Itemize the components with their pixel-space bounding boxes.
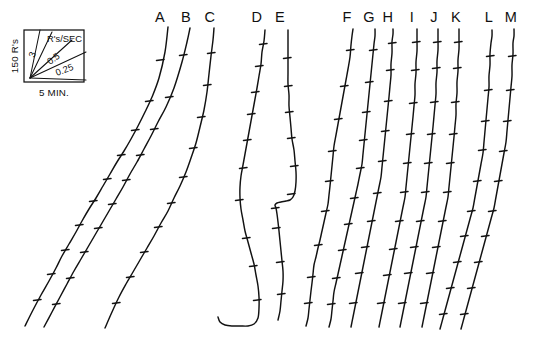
curve-label-F: F — [342, 9, 351, 25]
reinforcement-pip-I-7 — [407, 134, 415, 135]
reinforcement-pip-D-9 — [256, 66, 264, 67]
legend-x-axis-label: 5 MIN. — [39, 87, 69, 98]
reinforcement-pip-C-1 — [113, 303, 121, 304]
record-curve-J — [399, 29, 442, 327]
reinforcement-pip-D-1 — [254, 300, 262, 301]
reinforcement-pip-J-7 — [428, 134, 436, 135]
reinforcement-pip-I-8 — [410, 103, 418, 104]
reinforcement-pip-H-1 — [350, 303, 358, 304]
reinforcement-pip-I-6 — [404, 163, 412, 164]
record-trace-J — [400, 29, 438, 327]
reinforcement-pip-C-8 — [198, 117, 206, 118]
record-curve-H — [350, 29, 397, 327]
record-trace-I — [379, 29, 417, 327]
reinforcement-pip-I-5 — [401, 192, 409, 193]
reinforcement-pip-F-5 — [326, 181, 334, 182]
reinforcement-pip-H-9 — [387, 70, 395, 71]
legend-rate-line-label-0-25: 0.25 — [54, 61, 75, 78]
reinforcement-pip-A-1 — [34, 300, 42, 301]
reinforcement-pip-G-6 — [357, 168, 365, 169]
reinforcement-pip-A-2 — [48, 274, 56, 275]
record-trace-L — [440, 30, 492, 329]
reinforcement-pip-M-1 — [461, 314, 469, 315]
record-trace-G — [329, 29, 375, 327]
reinforcement-pip-M-10 — [509, 56, 517, 57]
reinforcement-pip-E-4 — [272, 208, 280, 209]
reinforcement-pip-F-8 — [341, 86, 349, 87]
reinforcement-pip-I-2 — [384, 275, 392, 276]
reinforcement-pip-L-5 — [468, 211, 476, 212]
reinforcement-pip-M-2 — [468, 288, 476, 289]
reinforcement-pip-C-3 — [141, 252, 149, 253]
reinforcement-pip-D-7 — [248, 114, 256, 115]
reinforcement-pip-J-5 — [422, 192, 430, 193]
reinforcement-pip-A-5 — [90, 201, 98, 202]
reinforcement-pip-L-9 — [485, 90, 493, 91]
reinforcement-pip-J-4 — [417, 221, 425, 222]
reinforcement-pip-F-2 — [308, 277, 316, 278]
record-curve-G — [328, 29, 378, 327]
reinforcement-pip-D-10 — [260, 44, 268, 45]
record-curve-D — [218, 30, 267, 326]
reinforcement-pip-E-1 — [278, 294, 286, 295]
reinforcement-pip-K-5 — [444, 192, 452, 193]
reinforcement-pip-A-6 — [104, 179, 112, 180]
reinforcement-pip-B-2 — [67, 278, 75, 279]
reinforcement-pip-F-4 — [322, 211, 330, 212]
reinforcement-pip-K-8 — [452, 102, 460, 103]
reinforcement-pip-G-8 — [363, 112, 371, 113]
record-trace-H — [351, 29, 393, 327]
curve-label-I: I — [410, 9, 414, 25]
reinforcement-pip-I-1 — [378, 303, 386, 304]
reinforcement-pip-J-8 — [431, 102, 439, 103]
reinforcement-pip-A-7 — [118, 155, 126, 156]
reinforcement-pip-M-8 — [504, 121, 512, 122]
reinforcement-pip-D-8 — [252, 92, 260, 93]
reinforcement-pip-B-10 — [180, 55, 188, 56]
record-trace-E — [275, 30, 296, 320]
reinforcement-pip-L-3 — [454, 262, 462, 263]
reinforcement-pip-K-3 — [433, 247, 441, 248]
reinforcement-pip-M-4 — [482, 236, 490, 237]
legend-ray-baseline — [30, 78, 86, 80]
reinforcement-pip-B-3 — [81, 252, 89, 253]
reinforcement-pip-C-9 — [204, 85, 212, 86]
reinforcement-pip-G-5 — [351, 198, 359, 199]
reinforcement-pip-L-10 — [487, 56, 495, 57]
reinforcement-pip-G-3 — [339, 250, 347, 251]
reinforcement-pip-E-5 — [288, 194, 296, 195]
reinforcement-pip-K-9 — [454, 68, 462, 69]
reinforcement-pip-K-10 — [455, 42, 463, 43]
cumulative-record-figure: R's/SEC 3 0.5 0.25 150 R's 5 MIN. ABCDEF… — [0, 0, 537, 337]
reinforcement-pip-B-1 — [53, 304, 61, 305]
reinforcement-pip-C-7 — [190, 148, 198, 149]
reinforcement-pip-H-5 — [374, 193, 382, 194]
reinforcement-pip-L-8 — [482, 121, 490, 122]
reinforcement-pip-E-3 — [273, 228, 281, 229]
reinforcement-pip-E-10 — [284, 58, 292, 59]
reinforcement-pip-I-4 — [396, 221, 404, 222]
reinforcement-pip-F-9 — [347, 50, 355, 51]
reinforcement-pip-B-5 — [109, 204, 117, 205]
reinforcement-pip-G-4 — [345, 224, 353, 225]
reinforcement-pip-A-3 — [62, 250, 70, 251]
reinforcement-pip-B-4 — [95, 228, 103, 229]
curve-label-M: M — [505, 9, 517, 25]
reinforcement-pip-G-7 — [360, 140, 368, 141]
reinforcement-pip-H-4 — [368, 221, 376, 222]
reinforcement-pip-E-9 — [285, 86, 293, 87]
reinforcement-pip-F-6 — [329, 151, 337, 152]
reinforcement-pip-E-6 — [291, 166, 299, 167]
reinforcement-pip-D-4 — [236, 200, 244, 201]
record-trace-C — [105, 28, 214, 328]
record-trace-M — [461, 29, 514, 329]
reinforcement-pip-H-2 — [356, 273, 364, 274]
curve-label-K: K — [451, 9, 461, 25]
reinforcement-pip-M-3 — [475, 262, 483, 263]
reinforcement-pip-B-7 — [137, 155, 145, 156]
reinforcement-pip-L-2 — [447, 288, 455, 289]
reinforcement-pip-A-8 — [132, 130, 140, 131]
reinforcement-pip-B-9 — [166, 97, 174, 98]
reinforcement-pip-C-5 — [168, 203, 176, 204]
reinforcement-pip-B-6 — [123, 180, 131, 181]
